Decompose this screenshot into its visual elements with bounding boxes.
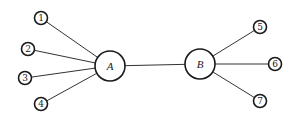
- node-label: 1: [38, 13, 44, 23]
- node-label: 5: [257, 22, 263, 32]
- node-label: 4: [38, 99, 44, 109]
- edges: [25, 18, 275, 104]
- node-label: 2: [25, 44, 31, 54]
- leaf-node-3: 3: [19, 72, 32, 85]
- network-diagram: 1234567AB: [0, 0, 302, 120]
- node-label: B: [197, 58, 204, 70]
- node-label: 7: [257, 96, 263, 106]
- hub-node-A: A: [95, 51, 125, 81]
- nodes: 1234567AB: [19, 12, 282, 111]
- node-label: 3: [22, 73, 28, 83]
- node-label: A: [106, 60, 114, 72]
- leaf-node-4: 4: [35, 98, 48, 111]
- leaf-node-2: 2: [22, 43, 35, 56]
- leaf-node-6: 6: [269, 58, 282, 71]
- node-label: 6: [272, 59, 278, 69]
- hub-node-B: B: [185, 49, 215, 79]
- leaf-node-1: 1: [35, 12, 48, 25]
- leaf-node-5: 5: [254, 21, 267, 34]
- leaf-node-7: 7: [254, 95, 267, 108]
